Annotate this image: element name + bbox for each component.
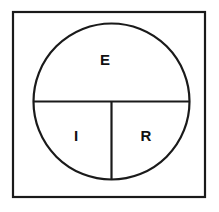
sector-label-i: I bbox=[74, 127, 78, 144]
outer-frame bbox=[13, 12, 205, 197]
sector-label-r: R bbox=[141, 127, 152, 144]
ohms-law-circle-diagram: E I R bbox=[0, 0, 219, 212]
sector-label-e: E bbox=[100, 51, 110, 68]
diagram-canvas: E I R bbox=[0, 0, 219, 212]
